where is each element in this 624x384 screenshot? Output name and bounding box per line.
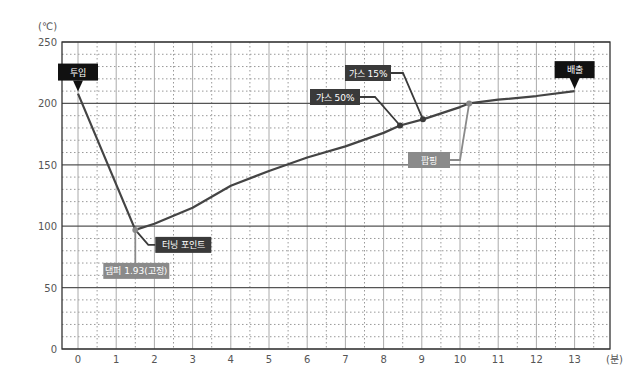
- y-axis-unit: (℃): [38, 21, 57, 32]
- start-callout-pointer: [73, 81, 83, 92]
- popping-marker: [466, 100, 472, 106]
- turning-label-text: 터닝 포인트: [162, 240, 205, 250]
- x-axis-unit: (분): [606, 354, 623, 365]
- x-tick-label: 5: [266, 354, 272, 365]
- end-callout-pointer: [570, 78, 580, 89]
- axes: 050100150200250012345678910111213(℃)(분): [38, 21, 623, 365]
- turning-leader: [135, 230, 155, 245]
- start-label-text: 투입: [70, 67, 86, 78]
- y-tick-label: 0: [51, 344, 57, 355]
- x-tick-label: 9: [419, 354, 425, 365]
- gas15-label-text: 가스 15%: [349, 69, 388, 79]
- plot-frame: [62, 42, 610, 349]
- popping-label-text: 팝핑: [421, 155, 437, 166]
- data-series: [78, 91, 575, 230]
- x-tick-label: 8: [380, 354, 386, 365]
- gas50-label-text: 가스 50%: [316, 93, 355, 103]
- x-tick-label: 11: [492, 354, 505, 365]
- x-tick-label: 0: [75, 354, 81, 365]
- gas15-leader: [391, 73, 423, 119]
- y-tick-label: 250: [38, 37, 57, 48]
- x-tick-label: 4: [228, 354, 234, 365]
- x-tick-label: 7: [342, 354, 348, 365]
- end-label-text: 배출: [567, 65, 583, 75]
- x-tick-label: 6: [304, 354, 310, 365]
- y-tick-label: 100: [38, 221, 57, 232]
- damper-label-text: 댐퍼 1.93(고정): [105, 266, 167, 276]
- y-tick-label: 150: [38, 160, 57, 171]
- roast-profile-chart: 050100150200250012345678910111213(℃)(분) …: [0, 0, 624, 384]
- turning-point-marker: [132, 227, 138, 233]
- x-tick-label: 3: [189, 354, 195, 365]
- x-tick-label: 13: [568, 354, 581, 365]
- y-tick-label: 50: [44, 283, 57, 294]
- gas15-marker: [420, 116, 426, 122]
- y-tick-label: 200: [38, 98, 57, 109]
- temperature-line: [78, 91, 575, 230]
- gas50-leader: [360, 97, 400, 126]
- x-tick-label: 12: [530, 354, 543, 365]
- x-tick-label: 1: [113, 354, 119, 365]
- x-tick-label: 2: [151, 354, 157, 365]
- x-tick-label: 10: [454, 354, 467, 365]
- grid: [62, 42, 610, 349]
- gas50-marker: [397, 123, 403, 129]
